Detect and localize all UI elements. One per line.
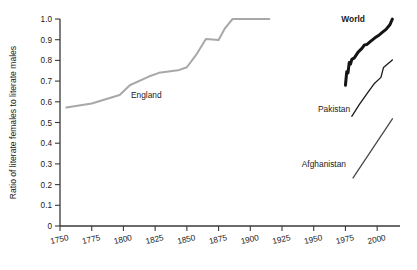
y-tick-label: 1.0 <box>41 15 53 24</box>
y-tick-label: 0.1 <box>41 201 53 210</box>
x-tick-label: 1775 <box>81 233 101 246</box>
x-tick-label: 1750 <box>50 233 70 246</box>
x-tick-label: 1900 <box>240 233 260 246</box>
y-axis-title: Ratio of literate females to literate ma… <box>8 46 18 199</box>
series-lines <box>66 19 392 178</box>
x-tick-label: 1800 <box>113 233 133 246</box>
x-tick-label: 1825 <box>145 233 165 246</box>
y-axis-title-text: Ratio of literate females to literate ma… <box>8 46 18 199</box>
x-tick-label: 1975 <box>335 233 355 246</box>
y-tick-label: 0 <box>47 222 52 231</box>
x-tick-label: 1850 <box>176 233 196 246</box>
series-line-afghanistan <box>353 119 392 178</box>
x-tick-label: 1950 <box>303 233 323 246</box>
series-line-world <box>345 19 392 85</box>
series-label-afghanistan: Afghanistan <box>302 159 347 169</box>
chart-container: 00.10.20.30.40.50.60.70.80.91.0 17501775… <box>0 0 417 270</box>
series-labels: EnglandWorldPakistanAfghanistan <box>131 14 365 169</box>
y-tick-label: 0.2 <box>41 181 53 190</box>
y-tick-label: 0.6 <box>41 98 53 107</box>
series-label-england: England <box>131 90 162 100</box>
y-tick-label: 0.9 <box>41 36 53 45</box>
series-line-pakistan <box>352 60 393 116</box>
x-tick-label: 1925 <box>272 233 292 246</box>
series-label-world: World <box>341 14 365 24</box>
literacy-ratio-line-chart: 00.10.20.30.40.50.60.70.80.91.0 17501775… <box>0 0 417 270</box>
series-line-england <box>66 19 269 108</box>
y-tick-label: 0.7 <box>41 77 53 86</box>
y-axis: 00.10.20.30.40.50.60.70.80.91.0 <box>41 15 60 231</box>
y-tick-label: 0.3 <box>41 160 53 169</box>
x-tick-label: 2000 <box>367 233 387 246</box>
y-tick-label: 0.5 <box>41 119 53 128</box>
x-tick-label: 1875 <box>208 233 228 246</box>
x-axis: 1750177518001825185018751900192519501975… <box>50 226 400 246</box>
series-label-pakistan: Pakistan <box>318 104 350 114</box>
y-tick-label: 0.8 <box>41 56 53 65</box>
y-tick-label: 0.4 <box>41 139 53 148</box>
